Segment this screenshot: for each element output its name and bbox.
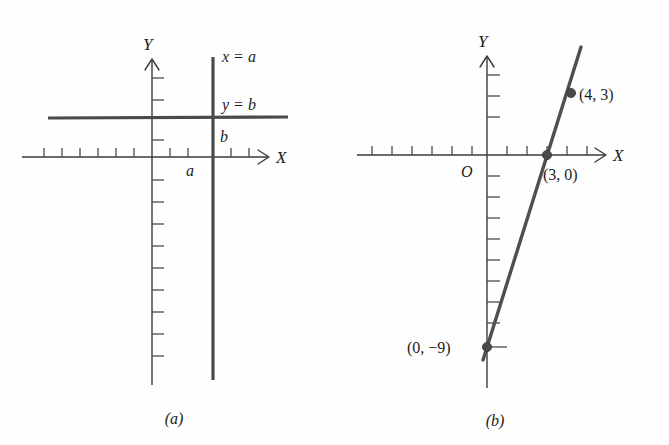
- panel-b-y-axis: [480, 56, 507, 388]
- data-point-4-3: [566, 88, 575, 97]
- data-point-3-0: [542, 150, 551, 159]
- panel-b-x-axis: [357, 146, 606, 162]
- panel-a-y-axis-label: Y: [143, 35, 154, 54]
- figure-root: X Y x = a y = b a b (a): [0, 0, 669, 445]
- label-x-equals-a: x = a: [221, 48, 256, 65]
- label-y-equals-b: y = b: [220, 96, 256, 114]
- panel-a-svg: X Y x = a y = b a b (a): [0, 0, 335, 445]
- panel-b-caption: (b): [486, 412, 505, 430]
- horizontal-line-y-equals-b: [48, 117, 288, 118]
- panel-a-x-axis: [22, 148, 269, 164]
- panel-a: X Y x = a y = b a b (a): [0, 0, 335, 445]
- label-y-intercept-b: b: [220, 128, 228, 145]
- label-x-intercept-a: a: [186, 162, 194, 179]
- panel-a-y-axis: [145, 59, 164, 385]
- panel-a-caption: (a): [165, 410, 184, 428]
- point-label-3-0: (3, 0): [543, 166, 578, 184]
- point-label-0-minus-9: (0, −9): [407, 339, 451, 357]
- panel-b: X Y O (4, 3) (3, 0) (0, −9) (b): [335, 0, 669, 445]
- panel-b-x-axis-label: X: [612, 146, 624, 165]
- panel-b-svg: X Y O (4, 3) (3, 0) (0, −9) (b): [335, 0, 669, 445]
- data-point-0-minus-9: [482, 342, 491, 351]
- panel-b-y-axis-label: Y: [478, 32, 489, 51]
- point-label-4-3: (4, 3): [579, 86, 614, 104]
- origin-label: O: [461, 163, 473, 180]
- panel-a-x-axis-label: X: [275, 148, 287, 167]
